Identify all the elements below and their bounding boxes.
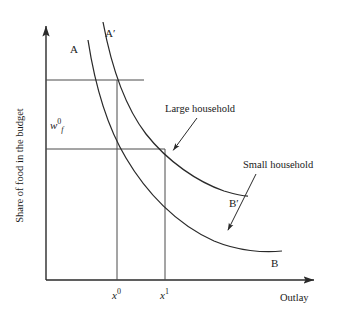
x-tick-1-superscript: 1 [165, 287, 169, 296]
curve-label-A-prime-base: A [105, 27, 113, 39]
annotation-small-household: Small household [243, 160, 313, 171]
x-tick-0: x0 [112, 288, 121, 301]
curve-label-A: A [70, 44, 78, 55]
x-tick-0-superscript: 0 [117, 287, 121, 296]
x-axis-title: Outlay [280, 293, 309, 304]
engel-curve-figure: Share of food in the budget w0f x0 x1 Ou… [0, 0, 349, 325]
y-tick-wf0: w0f [50, 117, 64, 134]
curve-label-B-prime-mark: ′ [236, 197, 238, 209]
curve-label-B-prime: B′ [229, 198, 239, 209]
curve-label-B: B [271, 258, 278, 269]
annotation-large-household: Large household [165, 104, 235, 115]
y-tick-wf0-subscript: f [61, 125, 63, 134]
y-axis-title: Share of food in the budget [14, 91, 25, 241]
x-tick-1: x1 [160, 288, 169, 301]
large-household-arrow [173, 118, 197, 150]
curve-label-A-prime-mark: ′ [113, 27, 115, 39]
curve-label-A-prime: A′ [105, 28, 115, 39]
